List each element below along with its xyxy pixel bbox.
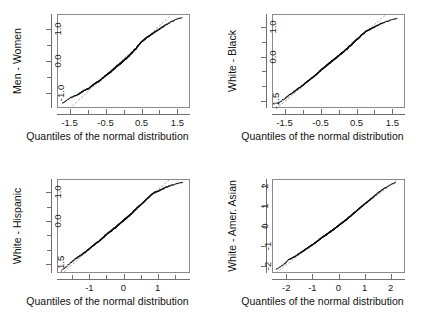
y-tick-label: 0.0 [52, 61, 63, 74]
y-axis-label-text: Men - Women [11, 28, 23, 94]
y-tick-label: -2 [262, 266, 273, 274]
y-tick-label: 1.0 [52, 29, 63, 42]
x-tick-label: -1 [308, 282, 316, 293]
x-tick-label: 0.5 [350, 117, 363, 128]
qq-panel-2: -1.5-0.50.51.5-1.50.01.0Quantiles of the… [215, 0, 430, 165]
y-axis-label-text: White - Black [226, 30, 238, 92]
y-tick-label: -1.0 [55, 93, 66, 109]
y-tick-label: 0.0 [52, 221, 63, 234]
x-axis-label: Quantiles of the normal distribution [215, 130, 430, 142]
x-tick [124, 274, 125, 279]
x-tick-label: 1 [362, 282, 367, 293]
y-tick [46, 192, 51, 193]
x-tick [339, 274, 340, 279]
y-tick [261, 57, 266, 58]
plot-area [57, 179, 190, 273]
y-axis-label: Men - Women [10, 14, 24, 108]
y-tick-label: 0.0 [267, 57, 278, 70]
y-tick [47, 45, 51, 46]
y-tick [47, 207, 51, 208]
data-points [62, 182, 183, 270]
x-axis-label: Quantiles of the normal distribution [0, 130, 215, 142]
x-tick-label: 1 [155, 282, 160, 293]
y-axis-label-text: White - Amer. Asian [226, 180, 238, 272]
x-tick [391, 274, 392, 279]
y-tick [46, 264, 51, 265]
x-tick [158, 274, 159, 279]
x-tick-label: 1.5 [386, 117, 399, 128]
x-axis-label: Quantiles of the normal distribution [215, 295, 430, 307]
x-tick-label: 0 [336, 282, 341, 293]
qq-panel-1: -1.5-0.50.51.5-1.00.01.0Quantiles of the… [0, 0, 215, 165]
x-tick [72, 275, 73, 279]
x-tick [124, 110, 125, 114]
x-axis-line [57, 279, 190, 280]
y-tick-label: 0 [259, 226, 270, 231]
x-tick [285, 109, 286, 114]
qq-panel-4: -2-1012-2-1012Quantiles of the normal di… [215, 165, 430, 330]
y-tick [261, 101, 266, 102]
x-tick [374, 110, 375, 114]
y-tick-label: 1.0 [52, 192, 63, 205]
x-axis-line [272, 114, 405, 115]
y-tick-label: -1.5 [270, 101, 281, 117]
x-tick-label: -2 [282, 282, 290, 293]
y-tick-label: 2 [259, 186, 270, 191]
x-tick [321, 109, 322, 114]
y-tick [47, 250, 51, 251]
y-tick [262, 86, 266, 87]
y-axis-label-text: White - Hispanic [11, 188, 23, 264]
y-axis-label: White - Hispanic [10, 179, 24, 273]
plot-area [272, 14, 405, 108]
x-tick [106, 109, 107, 114]
x-tick [177, 109, 178, 114]
y-axis-label: White - Black [225, 14, 239, 108]
x-tick [175, 275, 176, 279]
x-tick [365, 274, 366, 279]
x-tick [286, 274, 287, 279]
x-tick [392, 109, 393, 114]
y-tick [46, 61, 51, 62]
x-tick-label: -0.5 [312, 117, 328, 128]
x-tick [106, 275, 107, 279]
y-tick [47, 235, 51, 236]
x-tick-label: 0 [121, 282, 126, 293]
x-tick [88, 110, 89, 114]
x-axis-line [57, 114, 190, 115]
x-tick [70, 109, 71, 114]
x-tick [159, 110, 160, 114]
y-tick [46, 221, 51, 222]
x-tick-label: 2 [388, 282, 393, 293]
plot-area [57, 14, 190, 108]
x-tick-label: -0.5 [97, 117, 113, 128]
y-tick-label: 1.0 [267, 27, 278, 40]
y-tick-label: -1.5 [55, 264, 66, 280]
data-points [277, 18, 398, 104]
x-tick-label: 0.5 [135, 117, 148, 128]
data-points [276, 182, 396, 270]
y-tick [46, 93, 51, 94]
x-tick [303, 110, 304, 114]
x-tick [312, 274, 313, 279]
x-tick-label: 1.5 [171, 117, 184, 128]
x-tick-label: -1.5 [276, 117, 292, 128]
y-tick [262, 71, 266, 72]
x-tick [357, 109, 358, 114]
plot-area [272, 179, 405, 273]
x-axis-line [272, 279, 405, 280]
x-tick [339, 110, 340, 114]
y-tick [47, 77, 51, 78]
qq-panel-3: -101-1.50.01.0Quantiles of the normal di… [0, 165, 215, 330]
x-tick [89, 274, 90, 279]
x-tick [142, 109, 143, 114]
y-tick [261, 27, 266, 28]
x-tick-label: -1.5 [61, 117, 77, 128]
x-tick-label: -1 [85, 282, 93, 293]
qq-plot-figure: -1.5-0.50.51.5-1.00.01.0Quantiles of the… [0, 0, 430, 331]
x-tick [141, 275, 142, 279]
y-tick-label: -1 [262, 246, 273, 254]
y-tick [46, 29, 51, 30]
x-axis-label: Quantiles of the normal distribution [0, 295, 215, 307]
y-tick-label: 1 [259, 206, 270, 211]
y-tick [262, 42, 266, 43]
